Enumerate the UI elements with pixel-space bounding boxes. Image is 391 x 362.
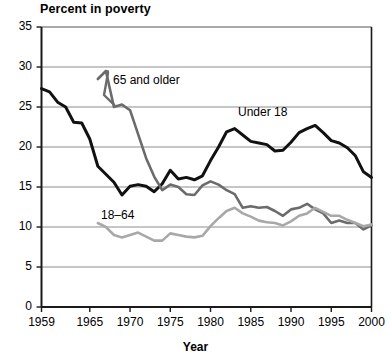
chart-plot-area — [0, 0, 391, 362]
x-tick-label: 1970 — [107, 315, 153, 329]
y-tick-label: 30 — [6, 59, 32, 73]
x-tick-label: 1965 — [67, 315, 113, 329]
series-label-18-64: 18–64 — [101, 208, 134, 222]
page-bottom-text-sliver — [0, 357, 391, 362]
series-label-65-and-older: 65 and older — [113, 73, 180, 87]
x-tick-label: 1990 — [268, 315, 314, 329]
y-tick-label: 5 — [6, 259, 32, 273]
x-tick-label: 2000 — [349, 315, 391, 329]
poverty-rate-line-chart: Percent in poverty 05101520253035 195919… — [0, 0, 391, 362]
chart-title: Percent in poverty — [40, 2, 151, 16]
y-tick-label: 0 — [6, 299, 32, 313]
x-tick-label: 1959 — [19, 315, 65, 329]
x-tick-label: 1980 — [188, 315, 234, 329]
x-axis-title: Year — [0, 340, 391, 354]
y-tick-label: 20 — [6, 139, 32, 153]
x-tick-label: 1975 — [147, 315, 193, 329]
series-label-under-18: Under 18 — [238, 105, 287, 119]
y-tick-label: 25 — [6, 99, 32, 113]
x-tick-label: 1985 — [228, 315, 274, 329]
x-tick-label: 1995 — [308, 315, 354, 329]
y-tick-label: 15 — [6, 179, 32, 193]
series-lines — [42, 71, 372, 241]
y-tick-label: 10 — [6, 219, 32, 233]
y-tick-label: 35 — [6, 19, 32, 33]
